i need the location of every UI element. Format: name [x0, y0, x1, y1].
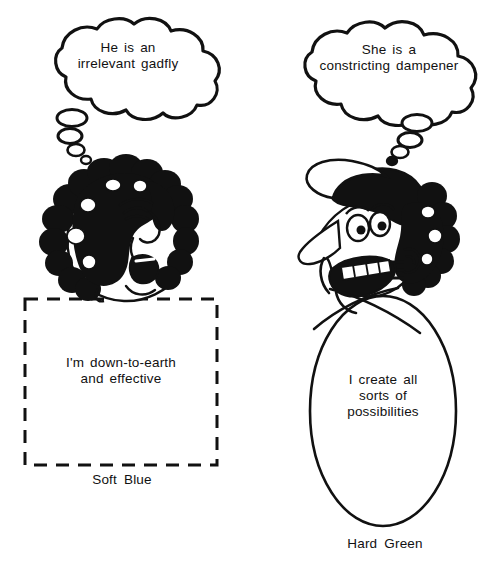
curly-haired-face-icon — [39, 154, 199, 301]
left-caption-label: Soft Blue — [26, 472, 218, 488]
right-self-statement-text: I create all sorts of possibilities — [318, 372, 448, 420]
right-caption-label: Hard Green — [310, 536, 460, 552]
left-thought-bubble-text: He is an irrelevant gadfly — [44, 40, 212, 72]
left-self-statement-text: I'm down-to-earth and effective — [26, 355, 216, 387]
right-thought-bubble-text: She is a constricting dampener — [296, 42, 482, 74]
cap-wearing-grinning-face-icon — [299, 160, 460, 333]
cartoon-canvas: He is an irrelevant gadfly She is a cons… — [0, 0, 502, 568]
